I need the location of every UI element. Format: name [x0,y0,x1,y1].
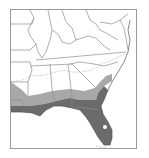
range-map [0,0,149,158]
map-frame [11,10,137,149]
lake-okeechobee [103,125,107,129]
